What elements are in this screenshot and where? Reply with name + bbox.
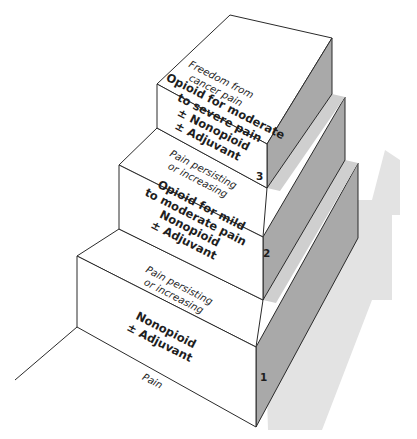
floor-line [15,327,77,380]
analgesic-ladder-diagram: Opioid for moderate to severe pain ± Non… [0,0,417,439]
step-1-number: 1 [260,371,267,383]
step-3-number: 3 [256,170,263,182]
step-2-number: 2 [263,247,270,259]
